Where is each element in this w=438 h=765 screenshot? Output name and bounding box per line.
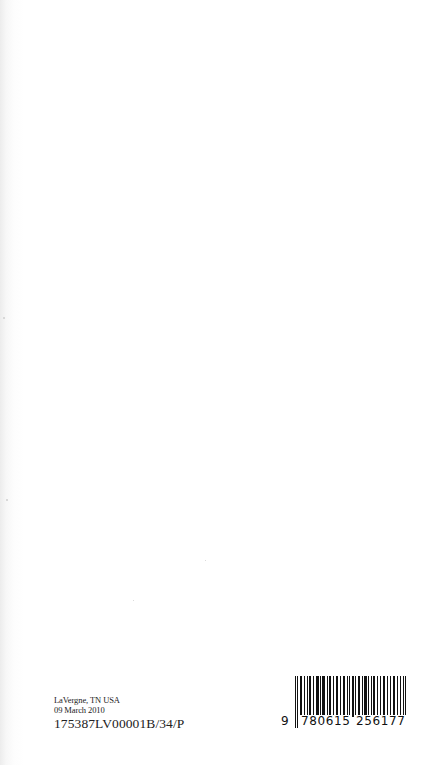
isbn-barcode: 9 <box>278 676 410 730</box>
dust-speck <box>3 317 5 319</box>
barcode-lead-digit: 9 <box>281 715 289 727</box>
dust-speck <box>133 600 134 601</box>
imprint-date: 09 March 2010 <box>54 705 184 715</box>
printer-imprint: LaVergne, TN USA 09 March 2010 175387LV0… <box>54 695 184 732</box>
book-back-page: LaVergne, TN USA 09 March 2010 175387LV0… <box>0 0 438 765</box>
dust-speck <box>6 499 8 501</box>
barcode-right-digits: 256177 <box>355 715 406 728</box>
imprint-print-code: 175387LV00001B/34/P <box>54 716 184 732</box>
barcode-left-digits: 780615 <box>300 715 351 728</box>
dust-speck <box>205 560 206 561</box>
imprint-location: LaVergne, TN USA <box>54 695 184 705</box>
